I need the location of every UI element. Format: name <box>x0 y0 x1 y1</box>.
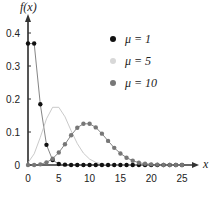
legend-marker <box>110 58 116 64</box>
data-point <box>75 163 79 167</box>
y-tick-label: 0.4 <box>6 28 20 39</box>
data-point <box>26 41 30 45</box>
legend-marker <box>110 36 116 42</box>
data-point <box>118 163 122 167</box>
data-point <box>112 163 116 167</box>
data-point <box>69 133 73 137</box>
y-tick-label: 0.1 <box>6 127 20 138</box>
data-point <box>124 163 128 167</box>
y-tick-label: 0 <box>14 160 20 171</box>
data-point <box>106 139 110 143</box>
data-point <box>112 146 116 150</box>
data-point <box>161 163 165 167</box>
data-point <box>118 151 122 155</box>
y-axis-label: f(x) <box>20 0 37 14</box>
data-point <box>94 163 98 167</box>
legend-label: μ = 10 <box>124 76 157 90</box>
legend-marker <box>110 80 116 86</box>
x-tick-label: 25 <box>176 173 188 184</box>
series-line <box>28 44 182 165</box>
x-tick-label: 5 <box>56 173 62 184</box>
poisson-chart: 051015202500.10.20.30.4xf(x)μ = 1μ = 5μ … <box>0 0 213 206</box>
data-point <box>57 150 61 154</box>
data-point <box>94 125 98 129</box>
y-axis-arrow-icon <box>25 14 31 22</box>
data-point <box>50 157 54 161</box>
data-point <box>167 163 171 167</box>
legend-label: μ = 5 <box>124 54 151 68</box>
data-point <box>87 122 91 126</box>
data-point <box>75 126 79 130</box>
data-point <box>180 163 184 167</box>
data-point <box>63 162 67 166</box>
data-point <box>63 142 67 146</box>
data-point <box>81 122 85 126</box>
x-tick-label: 20 <box>146 173 158 184</box>
data-point <box>100 131 104 135</box>
legend-label: μ = 1 <box>124 32 151 46</box>
x-axis-label: x <box>202 157 209 171</box>
data-point <box>38 102 42 106</box>
data-point <box>100 163 104 167</box>
data-point <box>149 162 153 166</box>
data-point <box>69 163 73 167</box>
data-point <box>32 163 36 167</box>
data-point <box>44 143 48 147</box>
data-point <box>155 162 159 166</box>
y-tick-label: 0.2 <box>6 94 20 105</box>
data-point <box>32 41 36 45</box>
data-point <box>26 163 30 167</box>
data-point <box>57 162 61 166</box>
data-point <box>137 160 141 164</box>
data-point <box>143 161 147 165</box>
data-point <box>174 163 178 167</box>
data-point <box>44 160 48 164</box>
data-point <box>124 156 128 160</box>
data-point <box>87 163 91 167</box>
data-point <box>106 163 110 167</box>
data-point <box>81 163 85 167</box>
y-tick-label: 0.3 <box>6 61 20 72</box>
data-point <box>38 162 42 166</box>
x-axis-arrow-icon <box>192 162 199 168</box>
data-point <box>131 159 135 163</box>
x-tick-label: 15 <box>115 173 127 184</box>
x-tick-label: 10 <box>84 173 96 184</box>
data-point <box>131 163 135 167</box>
x-tick-label: 0 <box>25 173 31 184</box>
